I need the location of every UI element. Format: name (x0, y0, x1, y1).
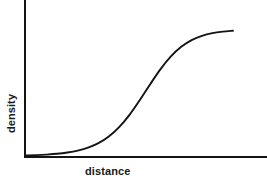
sigmoid-plot (0, 0, 267, 182)
y-axis-label: density (6, 94, 17, 133)
x-axis-label: distance (85, 166, 130, 177)
density-distance-curve (26, 31, 233, 156)
figure-container: distance density (0, 0, 267, 182)
